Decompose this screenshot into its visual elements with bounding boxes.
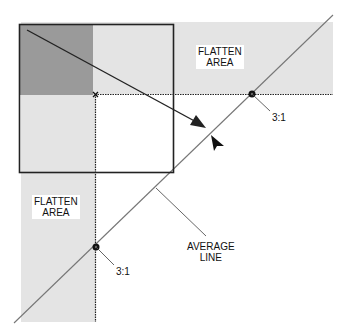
ratio-label-top: 3:1 bbox=[272, 112, 286, 123]
average-line-label: AVERAGE LINE bbox=[187, 241, 235, 263]
flatten-area-left-label: FLATTEN AREA bbox=[32, 195, 80, 219]
ratio-label-left: 3:1 bbox=[116, 266, 130, 277]
cursor-arrow-icon bbox=[211, 135, 224, 151]
diagram-canvas bbox=[0, 0, 347, 335]
arrow-head-icon bbox=[190, 115, 206, 128]
flatten-area-top-label: FLATTEN AREA bbox=[196, 45, 244, 69]
leader-line-ratio-left bbox=[96, 247, 114, 265]
leader-line-ratio-top bbox=[252, 94, 270, 111]
leader-line-average bbox=[156, 188, 206, 236]
